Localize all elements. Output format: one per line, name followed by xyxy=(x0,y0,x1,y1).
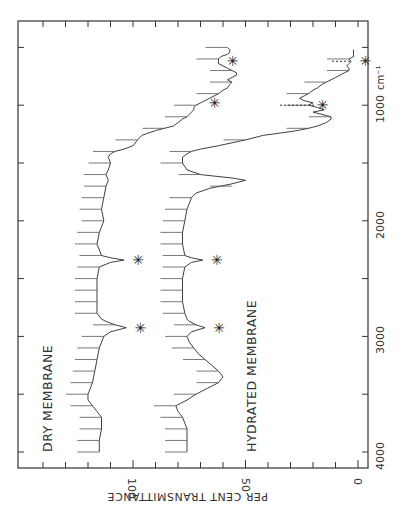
wavenumber-axis-ticks xyxy=(18,47,368,452)
y-axis-title: PER CENT TRANSMITTANCE xyxy=(107,490,268,503)
series-dry-membrane: ✳✳✳✳ xyxy=(66,47,238,452)
band-asterisk-icon: ✳ xyxy=(359,53,371,69)
series-label-dry: DRY MEMBRANE xyxy=(40,345,55,452)
series-hydrated-membrane: ✳✳✳✳ xyxy=(0,47,371,452)
transmittance-axis-ticks xyxy=(43,21,358,468)
plot-frame xyxy=(18,21,368,468)
tick-label-4000: 4000 xyxy=(374,442,387,470)
tick-label-50: 50 xyxy=(239,478,252,492)
band-asterisk-icon: ✳ xyxy=(317,97,329,113)
band-asterisk-icon: ✳ xyxy=(209,95,221,111)
tick-label-0: 0 xyxy=(351,478,364,485)
band-asterisk-icon: ✳ xyxy=(134,320,146,336)
ir-spectrum-chart: 100 50 0 PER CENT TRANSMITTANCE 4000 300… xyxy=(0,0,403,513)
band-asterisk-icon: ✳ xyxy=(213,320,225,336)
x-unit-label: cm⁻¹ xyxy=(375,65,386,90)
tick-label-1000: 1000 xyxy=(374,95,387,123)
band-asterisk-icon: ✳ xyxy=(227,53,239,69)
tick-label-2000: 2000 xyxy=(374,211,387,239)
band-asterisk-icon: ✳ xyxy=(211,252,223,268)
band-asterisk-icon: ✳ xyxy=(132,252,144,268)
series-label-hydrated: HYDRATED MEMBRANE xyxy=(244,300,259,452)
tick-label-3000: 3000 xyxy=(374,326,387,354)
